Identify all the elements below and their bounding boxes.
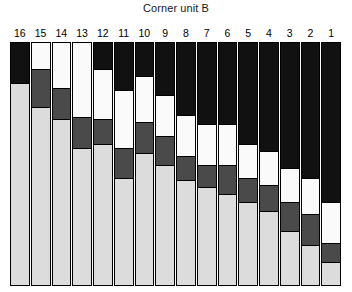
bar-segment-11-light_gray[interactable] — [115, 179, 133, 285]
bar-segment-9-dark_gray[interactable] — [156, 137, 174, 166]
bar-segment-9-white[interactable] — [156, 96, 174, 137]
chart-figure: Corner unit B 16151413121110987654321 — [0, 0, 352, 292]
bar-segment-9-black[interactable] — [156, 43, 174, 96]
bar-segment-4-white[interactable] — [260, 152, 278, 186]
bar-segment-15-dark_gray[interactable] — [32, 70, 50, 109]
bar-column-15[interactable]: 15 — [31, 26, 51, 286]
bar-segment-3-dark_gray[interactable] — [281, 203, 299, 232]
bar-segment-16-light_gray[interactable] — [11, 84, 29, 285]
bar-segment-10-light_gray[interactable] — [136, 154, 154, 285]
bar-segment-11-black[interactable] — [115, 43, 133, 91]
bar-stack-3 — [280, 42, 300, 286]
bar-segment-3-light_gray[interactable] — [281, 232, 299, 285]
bar-segment-12-white[interactable] — [94, 70, 112, 121]
bar-segment-5-light_gray[interactable] — [239, 203, 257, 285]
bar-column-14[interactable]: 14 — [52, 26, 72, 286]
bar-segment-9-light_gray[interactable] — [156, 166, 174, 285]
bar-stack-13 — [72, 42, 92, 286]
bar-column-16[interactable]: 16 — [10, 26, 30, 286]
bar-label-7: 7 — [197, 26, 217, 41]
bar-segment-8-dark_gray[interactable] — [177, 157, 195, 181]
bar-segment-13-light_gray[interactable] — [73, 149, 91, 285]
bar-segment-2-dark_gray[interactable] — [302, 215, 320, 246]
bar-column-13[interactable]: 13 — [72, 26, 92, 286]
bar-segment-1-dark_gray[interactable] — [322, 244, 340, 263]
bar-segment-10-black[interactable] — [136, 43, 154, 77]
bar-column-5[interactable]: 5 — [238, 26, 258, 286]
bar-column-10[interactable]: 10 — [135, 26, 155, 286]
bar-stack-8 — [176, 42, 196, 286]
bar-segment-6-light_gray[interactable] — [219, 195, 237, 285]
bar-stack-14 — [52, 42, 72, 286]
bar-stack-2 — [301, 42, 321, 286]
bar-segment-1-white[interactable] — [322, 203, 340, 244]
bar-segment-11-white[interactable] — [115, 91, 133, 149]
bar-column-12[interactable]: 12 — [93, 26, 113, 286]
bar-segment-11-dark_gray[interactable] — [115, 149, 133, 178]
bar-segment-6-black[interactable] — [219, 43, 237, 125]
bar-column-4[interactable]: 4 — [259, 26, 279, 286]
bar-segment-5-dark_gray[interactable] — [239, 179, 257, 203]
bar-stack-6 — [218, 42, 238, 286]
bar-column-1[interactable]: 1 — [321, 26, 341, 286]
bar-stack-1 — [321, 42, 341, 286]
bar-segment-4-black[interactable] — [260, 43, 278, 152]
bar-segment-12-black[interactable] — [94, 43, 112, 70]
bar-column-9[interactable]: 9 — [155, 26, 175, 286]
bar-label-13: 13 — [72, 26, 92, 41]
bar-segment-7-black[interactable] — [198, 43, 216, 125]
bar-segment-7-dark_gray[interactable] — [198, 166, 216, 188]
bar-segment-13-white[interactable] — [73, 43, 91, 118]
bar-segment-14-white[interactable] — [53, 43, 71, 89]
bar-label-9: 9 — [155, 26, 175, 41]
bar-column-2[interactable]: 2 — [301, 26, 321, 286]
bar-label-5: 5 — [238, 26, 258, 41]
bar-label-1: 1 — [321, 26, 341, 41]
bar-segment-10-white[interactable] — [136, 77, 154, 123]
bar-segment-4-light_gray[interactable] — [260, 212, 278, 285]
bar-segment-2-white[interactable] — [302, 179, 320, 215]
bar-label-16: 16 — [10, 26, 30, 41]
bar-stack-10 — [135, 42, 155, 286]
bar-label-11: 11 — [114, 26, 134, 41]
bar-segment-1-light_gray[interactable] — [322, 263, 340, 285]
bar-segment-4-dark_gray[interactable] — [260, 186, 278, 213]
bar-column-3[interactable]: 3 — [280, 26, 300, 286]
bar-segment-12-dark_gray[interactable] — [94, 120, 112, 144]
bar-segment-14-dark_gray[interactable] — [53, 89, 71, 120]
bar-segment-6-dark_gray[interactable] — [219, 166, 237, 195]
bar-label-14: 14 — [52, 26, 72, 41]
bar-segment-10-dark_gray[interactable] — [136, 123, 154, 154]
bar-segment-6-white[interactable] — [219, 125, 237, 166]
bar-column-8[interactable]: 8 — [176, 26, 196, 286]
bar-segment-7-light_gray[interactable] — [198, 188, 216, 285]
bar-column-11[interactable]: 11 — [114, 26, 134, 286]
bar-segment-15-white[interactable] — [32, 43, 50, 70]
bar-label-10: 10 — [135, 26, 155, 41]
bar-segment-5-black[interactable] — [239, 43, 257, 145]
bar-column-7[interactable]: 7 — [197, 26, 217, 286]
bar-segment-13-dark_gray[interactable] — [73, 118, 91, 149]
plot-area: 16151413121110987654321 — [10, 26, 342, 286]
bar-segment-15-light_gray[interactable] — [32, 108, 50, 285]
bar-stack-15 — [31, 42, 51, 286]
bar-segment-3-white[interactable] — [281, 169, 299, 203]
bar-segment-1-black[interactable] — [322, 43, 340, 203]
bar-segment-7-white[interactable] — [198, 125, 216, 166]
bar-stack-12 — [93, 42, 113, 286]
bar-stack-11 — [114, 42, 134, 286]
bar-segment-3-black[interactable] — [281, 43, 299, 169]
bar-label-8: 8 — [176, 26, 196, 41]
bar-segment-14-light_gray[interactable] — [53, 120, 71, 285]
bar-segment-8-black[interactable] — [177, 43, 195, 116]
bar-segment-2-black[interactable] — [302, 43, 320, 179]
bar-segment-5-white[interactable] — [239, 145, 257, 179]
bar-label-15: 15 — [31, 26, 51, 41]
bar-segment-2-light_gray[interactable] — [302, 246, 320, 285]
bar-segment-12-light_gray[interactable] — [94, 145, 112, 285]
bar-label-3: 3 — [280, 26, 300, 41]
bar-segment-8-light_gray[interactable] — [177, 181, 195, 285]
bar-segment-8-white[interactable] — [177, 116, 195, 157]
bar-column-6[interactable]: 6 — [218, 26, 238, 286]
bar-segment-16-black[interactable] — [11, 43, 29, 84]
